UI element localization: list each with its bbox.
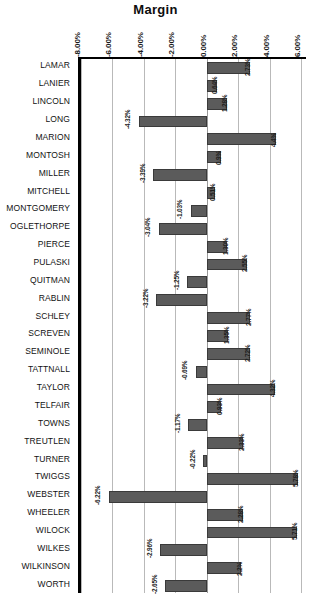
category-label: TELFAIR [35,400,70,410]
bar-value-label: 4.32% [269,380,276,397]
bar[interactable] [109,491,207,503]
bar-value-label: 0.51% [209,183,216,200]
bar-row: -1.17% [81,416,306,434]
category-label: TWIGGS [35,471,70,481]
bar[interactable] [203,455,206,467]
bar[interactable] [207,384,275,396]
bar-row: -3.39% [81,166,306,184]
bar-row: 1.30% [81,238,306,256]
bar-value-label: 2.55% [241,255,248,272]
category-label: MILLER [39,168,70,178]
bar-row: 0.93% [81,398,306,416]
bar-row: -1.03% [81,202,306,220]
bar-value-label: -0.22% [189,450,196,469]
bar-value-label: 2.28% [237,505,244,522]
bar-value-label: 0.64% [211,76,218,93]
bar[interactable] [207,527,297,539]
bar[interactable] [160,544,207,556]
bar[interactable] [165,580,207,592]
category-label: WORTH [38,579,70,589]
bar-value-label: -1.03% [176,199,183,218]
x-tick-label: -6.00% [104,32,113,57]
category-label: RABLIN [39,293,70,303]
bar-row: 2.2% [81,559,306,577]
chart-title: Margin [0,2,311,17]
bar[interactable] [153,169,206,181]
x-tick-label: 6.00% [293,35,302,57]
category-label: SCHLEY [35,311,70,321]
category-label: OGLETHORPE [10,221,70,231]
category-label: SEMINOLE [25,346,70,356]
x-tick-label: -8.00% [73,32,82,57]
bar-value-label: -0.69% [181,360,188,379]
x-tick-label: -4.00% [136,32,145,57]
bar-row: -0.22% [81,452,306,470]
bar[interactable] [139,116,207,128]
bar-row: 1.35% [81,327,306,345]
bar-value-label: -6.22% [94,485,101,504]
bar-row: -1.25% [81,273,306,291]
bar-value-label: 2.77% [245,309,252,326]
bar-value-label: 2.2% [236,562,243,576]
category-label: PIERCE [38,239,70,249]
bar-row: 2.55% [81,256,306,274]
bar-row: 0.64% [81,77,306,95]
bar-value-label: -1.17% [174,414,181,433]
bar-value-label: 1.30% [222,237,229,254]
bar-value-label: 1.35% [223,326,230,343]
bar[interactable] [191,205,207,217]
bar-row: 5.78% [81,470,306,488]
bar-row: 2.72% [81,345,306,363]
bar-row: 4.4% [81,130,306,148]
category-label: MARION [35,132,70,142]
category-label: MONTGOMERY [6,203,70,213]
bar-value-label: 0.9% [215,151,222,165]
bar[interactable] [159,223,207,235]
category-label: WILKINSON [21,561,70,571]
x-axis-tick-labels: -8.00%-6.00%-4.00%-2.00%0.00%2.00%4.00%6… [0,20,311,57]
bar-row: 4.32% [81,381,306,399]
bar[interactable] [207,473,298,485]
bar[interactable] [187,276,207,288]
margin-bar-chart: Margin -8.00%-6.00%-4.00%-2.00%0.00%2.00… [0,0,311,610]
bar-value-label: -2.65% [151,575,158,594]
bar-row: -2.65% [81,577,306,595]
bar[interactable] [196,366,207,378]
category-label: QUITMAN [30,275,70,285]
bar-value-label: -2.96% [146,539,153,558]
bar-row: -4.32% [81,113,306,131]
bar-row: 1.28% [81,95,306,113]
bar[interactable] [188,419,206,431]
bar[interactable] [156,294,207,306]
bar-value-label: 2.72% [244,344,251,361]
category-label: WILOCK [36,525,70,535]
category-label: TREUTLEN [24,436,70,446]
bar-row: -3.04% [81,220,306,238]
plot-area: 2.73%0.64%1.28%-4.32%4.4%0.9%-3.39%0.51%… [78,57,306,593]
bar-value-label: 0.93% [216,398,223,415]
category-label: TAYLOR [37,382,70,392]
x-tick-label: -2.00% [167,32,176,57]
category-label: WHEELER [27,507,70,517]
bar[interactable] [207,133,276,145]
bar-value-label: 2.33% [238,434,245,451]
category-label: TATTNALL [28,364,70,374]
bar-value-label: -3.04% [144,217,151,236]
bar[interactable] [207,312,251,324]
bar-row: 2.73% [81,59,306,77]
category-label: LAMAR [40,60,70,70]
category-label: SCREVEN [28,328,70,338]
bar-row: 0.51% [81,184,306,202]
bar-row: -2.96% [81,541,306,559]
bar-row: -3.22% [81,291,306,309]
category-label: TURNER [34,454,70,464]
bar-value-label: -4.32% [124,110,131,129]
x-tick-label: 2.00% [230,35,239,57]
category-label: WILKES [37,543,70,553]
bar-row: 0.9% [81,148,306,166]
bar-value-label: 2.73% [244,58,251,75]
bar-value-label: 4.4% [270,133,277,147]
bar-row: 2.77% [81,309,306,327]
category-label: LINCOLN [32,96,70,106]
bar-rows: 2.73%0.64%1.28%-4.32%4.4%0.9%-3.39%0.51%… [81,59,306,593]
